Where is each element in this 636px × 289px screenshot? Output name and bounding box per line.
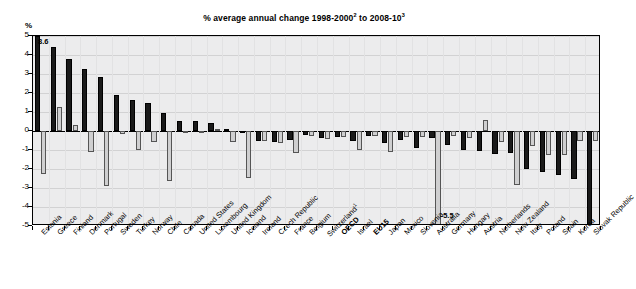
- bar-series-1-luxembourg: [208, 123, 213, 131]
- vertical-gridline: [412, 36, 413, 224]
- bar-series-1-poland: [540, 131, 545, 172]
- bar-series-2-slovak-republic: [593, 131, 598, 141]
- gridline: [33, 55, 599, 56]
- bar-series-2-ireland: [262, 131, 267, 141]
- y-tick-label: 2: [5, 88, 29, 96]
- bar-series-2-italy: [530, 131, 535, 146]
- bar-series-2-slovenia: [420, 131, 425, 137]
- bar-series-2-mexico: [404, 131, 409, 137]
- bar-series-2-canada: [183, 131, 188, 133]
- vertical-gridline: [364, 36, 365, 224]
- bar-series-2-chile: [167, 131, 172, 181]
- vertical-gridline: [112, 36, 113, 224]
- bar-series-2-france: [293, 131, 298, 153]
- vertical-gridline: [80, 36, 81, 224]
- y-axis-unit-label: %: [25, 21, 32, 30]
- bar-series-2-new-zealand: [514, 131, 519, 185]
- y-tick-label: 3: [5, 69, 29, 77]
- bar-series-2-hungary: [467, 131, 472, 138]
- y-axis: 543210-1-2-3-4-5: [0, 35, 29, 225]
- value-annotation-australia: -5.5: [441, 211, 454, 220]
- bar-series-1-switzerland: [319, 131, 324, 138]
- gridline: [33, 207, 599, 208]
- y-tick-label: 5: [5, 31, 29, 39]
- bar-series-1-slovak-republic: [587, 131, 592, 225]
- y-tick-label: -4: [5, 202, 29, 210]
- bar-series-1-norway: [145, 103, 150, 131]
- vertical-gridline: [317, 36, 318, 224]
- bar-series-1-portugal: [98, 77, 103, 131]
- bar-series-2-israel: [357, 131, 362, 150]
- bar-series-2-iceland: [246, 131, 251, 178]
- vertical-gridline: [427, 36, 428, 224]
- bar-series-1-austria: [477, 131, 482, 151]
- value-annotation-estonia: 8.6: [38, 37, 48, 46]
- gridline: [33, 74, 599, 75]
- bar-series-2-oecd: [341, 131, 346, 137]
- bar-series-1-new-zealand: [508, 131, 513, 153]
- bar-series-2-denmark: [88, 131, 93, 152]
- bar-series-2-czech-republic: [278, 131, 283, 143]
- chart-title: % average annual change 1998-20002 to 20…: [0, 12, 608, 23]
- bar-series-2-korea: [577, 131, 582, 141]
- vertical-gridline: [285, 36, 286, 224]
- y-tick-label: -1: [5, 145, 29, 153]
- vertical-gridline: [65, 36, 66, 224]
- vertical-gridline: [459, 36, 460, 224]
- gridline: [33, 188, 599, 189]
- bar-series-2-japan: [388, 131, 393, 152]
- bar-series-1-denmark: [82, 69, 87, 131]
- bar-series-2-portugal: [104, 131, 109, 186]
- vertical-gridline: [569, 36, 570, 224]
- y-tick-label: 4: [5, 50, 29, 58]
- gridline: [33, 36, 599, 37]
- bar-series-1-belgium: [303, 131, 308, 135]
- y-tick-label: -2: [5, 164, 29, 172]
- bar-series-2-finland: [73, 125, 78, 131]
- bar-series-1-estonia: [35, 36, 40, 131]
- bar-series-2-united-states: [199, 131, 204, 133]
- vertical-gridline: [522, 36, 523, 224]
- vertical-gridline: [380, 36, 381, 224]
- bar-series-1-czech-republic: [272, 131, 277, 142]
- vertical-gridline: [207, 36, 208, 224]
- bar-series-1-australia: [429, 131, 434, 138]
- bar-series-1-iceland: [240, 131, 245, 133]
- bar-series-2-turkey: [136, 131, 141, 150]
- vertical-gridline: [333, 36, 334, 224]
- vertical-gridline: [506, 36, 507, 224]
- bar-series-1-slovenia: [414, 131, 419, 148]
- vertical-gridline: [222, 36, 223, 224]
- bar-series-1-turkey: [130, 100, 135, 131]
- bar-series-2-spain: [562, 131, 567, 155]
- bar-series-1-netherlands: [492, 131, 497, 154]
- bar-series-1-france: [287, 131, 292, 140]
- y-tick-label: -3: [5, 183, 29, 191]
- vertical-gridline: [238, 36, 239, 224]
- vertical-gridline: [159, 36, 160, 224]
- bar-series-1-united-states: [193, 121, 198, 131]
- vertical-gridline: [254, 36, 255, 224]
- vertical-gridline: [349, 36, 350, 224]
- vertical-gridline: [191, 36, 192, 224]
- bar-series-1-finland: [66, 59, 71, 131]
- bar-series-1-united-kingdom: [224, 129, 229, 131]
- bar-series-1-oecd: [335, 131, 340, 137]
- bar-series-2-poland: [546, 131, 551, 155]
- bar-series-1-chile: [161, 113, 166, 131]
- bar-series-1-canada: [177, 121, 182, 131]
- vertical-gridline: [585, 36, 586, 224]
- vertical-gridline: [491, 36, 492, 224]
- bar-series-1-eu15: [366, 131, 371, 136]
- bar-series-2-norway: [151, 131, 156, 142]
- bar-series-1-greece: [51, 47, 56, 131]
- bar-series-1-sweden: [114, 95, 119, 131]
- bar-series-2-luxembourg: [215, 129, 220, 131]
- vertical-gridline: [49, 36, 50, 224]
- gridline: [33, 93, 599, 94]
- bar-series-1-italy: [524, 131, 529, 169]
- bar-series-2-switzerland: [325, 131, 330, 139]
- bar-series-2-austria: [483, 120, 488, 131]
- bar-series-1-korea: [571, 131, 576, 179]
